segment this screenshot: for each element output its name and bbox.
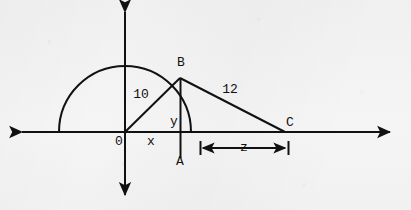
label-point-c: C	[286, 116, 294, 129]
label-point-a: A	[176, 155, 184, 168]
label-y-segment: y	[170, 115, 178, 128]
label-origin: 0	[115, 135, 123, 148]
diagram-canvas: 0 10 x y B A 12 C z	[0, 0, 411, 210]
geometry-figure	[0, 0, 411, 210]
label-point-b: B	[177, 56, 185, 69]
label-radius-10: 10	[133, 88, 149, 101]
label-dimension-z: z	[240, 141, 248, 154]
label-x-segment: x	[147, 135, 155, 148]
label-hypotenuse-12: 12	[222, 83, 238, 96]
